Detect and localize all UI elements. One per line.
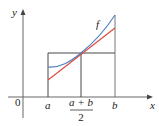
y-axis-arrow-icon <box>21 9 26 15</box>
tick-label-b: b <box>112 99 118 111</box>
y-axis-label: y <box>11 6 17 18</box>
curve-f <box>48 15 115 67</box>
midpoint-rule-diagram: y x 0 a a + b 2 b f <box>0 0 159 126</box>
tick-label-a: a <box>45 99 51 111</box>
tangent-line <box>48 28 115 80</box>
x-axis-label: x <box>149 99 155 111</box>
tick-label-midpoint-denominator: 2 <box>78 111 84 123</box>
curve-label-f: f <box>96 18 101 30</box>
origin-label: 0 <box>15 96 21 108</box>
tick-label-midpoint-numerator: a + b <box>69 96 93 108</box>
